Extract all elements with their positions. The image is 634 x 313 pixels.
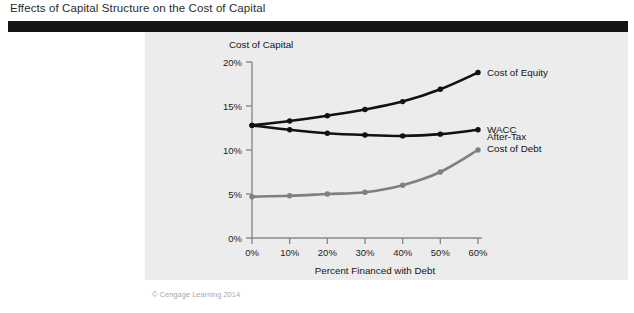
- data-point: [287, 118, 292, 123]
- svg-text:15%: 15%: [223, 101, 243, 112]
- data-point: [475, 147, 480, 152]
- svg-text:10%: 10%: [223, 145, 243, 156]
- data-point: [475, 127, 480, 132]
- svg-text:5%: 5%: [228, 189, 242, 200]
- svg-text:60%: 60%: [468, 247, 488, 258]
- svg-text:After-Tax: After-Tax: [487, 131, 526, 142]
- svg-text:0%: 0%: [228, 233, 242, 244]
- data-point: [325, 131, 330, 136]
- svg-text:10%: 10%: [280, 247, 300, 258]
- svg-text:Cost of Equity: Cost of Equity: [487, 67, 548, 78]
- chart-axes: [246, 62, 482, 244]
- data-point: [287, 127, 292, 132]
- series-2: [249, 123, 480, 139]
- svg-text:30%: 30%: [355, 247, 375, 258]
- data-point: [362, 107, 367, 112]
- data-point: [362, 190, 367, 195]
- data-point: [362, 132, 367, 137]
- data-point: [287, 193, 292, 198]
- data-point: [438, 169, 443, 174]
- data-point: [475, 70, 480, 75]
- copyright-notice: © Cengage Learning 2014: [152, 290, 240, 299]
- line-chart: 0%5%10%15%20%0%10%20%30%40%50%60%Cost of…: [145, 32, 628, 280]
- data-point: [400, 183, 405, 188]
- series-1: [249, 70, 480, 128]
- data-point: [400, 133, 405, 138]
- data-point: [325, 113, 330, 118]
- svg-text:20%: 20%: [223, 57, 243, 68]
- page-title: Effects of Capital Structure on the Cost…: [10, 2, 265, 14]
- header-rule-bar: [8, 21, 628, 32]
- chart-series: [249, 70, 480, 199]
- chart-labels: 0%5%10%15%20%0%10%20%30%40%50%60%Cost of…: [223, 39, 548, 276]
- data-point: [438, 131, 443, 136]
- series-3: [249, 147, 480, 199]
- data-point: [249, 123, 254, 128]
- data-point: [249, 194, 254, 199]
- data-point: [438, 87, 443, 92]
- svg-text:0%: 0%: [245, 247, 259, 258]
- data-point: [325, 191, 330, 196]
- svg-text:50%: 50%: [431, 247, 451, 258]
- svg-text:Percent Financed with Debt: Percent Financed with Debt: [315, 265, 436, 276]
- svg-text:Cost of Capital: Cost of Capital: [229, 39, 293, 50]
- svg-text:40%: 40%: [393, 247, 413, 258]
- svg-text:Cost of Debt: Cost of Debt: [487, 143, 542, 154]
- svg-text:20%: 20%: [318, 247, 338, 258]
- chart-panel: 0%5%10%15%20%0%10%20%30%40%50%60%Cost of…: [145, 32, 628, 280]
- data-point: [400, 99, 405, 104]
- figure-container: Effects of Capital Structure on the Cost…: [0, 0, 634, 313]
